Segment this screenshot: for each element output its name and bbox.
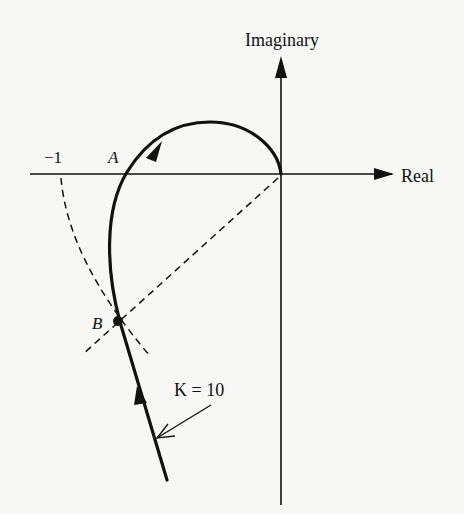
real-axis-arrow-icon: [374, 168, 394, 180]
gain-label: K = 10: [174, 380, 224, 400]
imaginary-axis-arrow-icon: [275, 56, 287, 78]
real-axis: [30, 168, 394, 180]
minus-one-label: −1: [44, 148, 62, 167]
nyquist-diagram: Imaginary Real −1 A B K = 10: [0, 0, 464, 514]
imaginary-axis: [275, 56, 287, 505]
gain-pointer: [157, 405, 211, 438]
point-b-marker: [113, 316, 123, 326]
point-a-label: A: [107, 148, 119, 167]
unit-circle-arc: [61, 178, 150, 356]
nyquist-locus: [110, 122, 281, 480]
imaginary-axis-label: Imaginary: [245, 30, 319, 50]
point-b-label: B: [92, 314, 103, 333]
real-axis-label: Real: [401, 166, 434, 186]
